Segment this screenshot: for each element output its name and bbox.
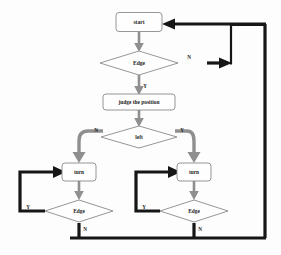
node-start-label: start [133,19,144,25]
node-edge-left[interactable]: Edge [45,200,113,222]
left-yes-arrowhead [188,152,201,163]
node-turn-right-label: turn [189,169,199,175]
left-no-path [79,131,103,155]
node-edge-right-label: Edge [188,208,200,214]
node-judge-position[interactable]: judge the position [103,94,175,110]
flowchart-diagram: start Edge judge the position left turn … [0,0,281,255]
edge-edge1-no-return [207,25,266,69]
node-left-label: left [135,134,143,140]
edge-left-no-turnL [73,131,104,163]
node-edge1[interactable]: Edge [100,51,178,75]
node-edge1-label: Edge [133,60,146,66]
edge-left-yes-turnR [175,131,201,163]
branch-label-left-yes: Y [180,127,184,133]
node-left[interactable]: left [101,126,177,148]
branch-label-edgeR-yes: Y [142,204,146,210]
node-edge-left-label: Edge [73,208,85,214]
branch-label-edge1-yes: Y [143,83,147,89]
branch-label-edge1-no: N [187,54,191,60]
edge-start-to-edge1 [134,32,144,52]
node-turn-left[interactable]: turn [62,163,96,181]
edge-turnL-to-edgeL [74,181,84,200]
edge1-no-riser [231,25,266,65]
branch-label-left-no: N [94,127,98,133]
turnL-edgeL-arrowhead [74,191,84,200]
branch-label-edgeR-no: N [198,226,202,232]
node-start[interactable]: start [116,13,162,32]
edge-turnR-to-edgeR [189,181,199,200]
node-judge-label: judge the position [117,99,159,105]
edge-judge-to-left [134,110,144,127]
node-edge-right[interactable]: Edge [160,200,228,222]
left-no-arrowhead [73,152,86,163]
node-turn-right[interactable]: turn [177,163,211,181]
node-turn-left-label: turn [74,169,84,175]
flowchart-canvas: start Edge judge the position left turn … [0,0,281,255]
turnR-edgeR-arrowhead [189,191,199,200]
return-arrowhead-into-start [162,19,175,30]
branch-label-edgeL-yes: Y [26,204,30,210]
branch-label-edgeL-no: N [83,226,87,232]
left-yes-path [175,131,194,155]
